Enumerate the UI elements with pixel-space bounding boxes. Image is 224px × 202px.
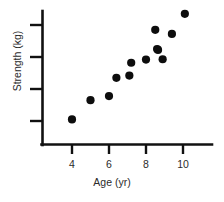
data-point xyxy=(127,59,135,67)
data-point xyxy=(151,26,159,34)
data-point xyxy=(181,10,189,18)
y-axis-ticks xyxy=(30,25,43,121)
x-axis-ticks xyxy=(72,145,183,155)
data-point xyxy=(168,30,176,38)
y-axis-label: Strength (kg) xyxy=(11,6,23,116)
x-tick-label-1: 6 xyxy=(97,158,121,170)
x-tick-label-0: 4 xyxy=(60,158,84,170)
x-tick-label-3: 10 xyxy=(171,158,195,170)
data-points-group xyxy=(68,10,189,124)
data-point xyxy=(159,55,167,63)
data-point xyxy=(112,74,120,82)
data-point xyxy=(125,71,133,79)
data-point xyxy=(86,96,94,104)
data-point xyxy=(105,92,113,100)
data-point xyxy=(142,55,150,63)
data-point xyxy=(68,115,76,123)
plot-canvas xyxy=(0,0,224,202)
scatter-plot-figure: 4 6 8 10 Age (yr) Strength (kg) xyxy=(0,0,224,202)
x-axis-label: Age (yr) xyxy=(0,176,224,188)
data-point xyxy=(154,46,162,54)
x-tick-label-2: 8 xyxy=(134,158,158,170)
y-axis-label-wrapper: Strength (kg) xyxy=(11,6,27,116)
